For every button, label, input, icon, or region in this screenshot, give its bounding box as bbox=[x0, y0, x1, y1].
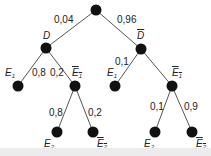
probability-tree-diagram: 0,04 0,96 0,8 0,2 0,1 0,8 0,2 0,1 0,9 D … bbox=[0, 0, 211, 156]
node-D bbox=[41, 43, 52, 54]
node-label-D-notE1: E1 bbox=[72, 68, 82, 81]
edge-label-root-notD: 0,96 bbox=[117, 15, 136, 25]
node-notD-E1 bbox=[110, 81, 121, 92]
node-notD-notE1-E2 bbox=[150, 127, 161, 138]
node-label-D-E1: E1 bbox=[5, 68, 15, 81]
node-D-notE1-E2 bbox=[52, 127, 63, 138]
node-label-notD: D bbox=[137, 31, 144, 41]
node-notD bbox=[136, 44, 147, 55]
node-notD-notE1-notE2 bbox=[187, 127, 198, 138]
root-node bbox=[91, 5, 102, 16]
node-D-notE1 bbox=[70, 81, 81, 92]
edge-label-DnotE1-notE2: 0,2 bbox=[88, 108, 102, 118]
edge-label-notD-E1: 0,1 bbox=[115, 57, 129, 67]
edge-label-D-notE1: 0,2 bbox=[50, 68, 64, 78]
edge-label-notDnotE1-notE2: 0,9 bbox=[184, 102, 198, 112]
node-D-notE1-notE2 bbox=[88, 127, 99, 138]
bottom-band bbox=[0, 148, 211, 156]
node-label-notD-E1: E1 bbox=[107, 68, 117, 81]
node-label-D: D bbox=[43, 31, 50, 41]
node-label-notD-notE1: E1 bbox=[172, 68, 182, 81]
edge-label-D-E1: 0,8 bbox=[32, 68, 46, 78]
edge-label-DnotE1-E2: 0,8 bbox=[49, 108, 63, 118]
edge-label-notDnotE1-E2: 0,1 bbox=[150, 102, 164, 112]
node-D-E1 bbox=[13, 81, 24, 92]
edge-label-root-D: 0,04 bbox=[54, 15, 73, 25]
node-notD-notE1 bbox=[167, 81, 178, 92]
